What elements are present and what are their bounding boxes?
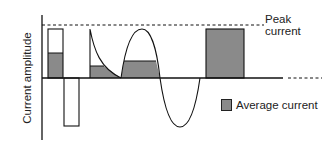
pulse-negative bbox=[64, 78, 79, 126]
exponential-average bbox=[90, 66, 121, 78]
peak-label-line1: Peak bbox=[265, 13, 301, 25]
pulse-positive-average bbox=[48, 53, 63, 78]
sine-average bbox=[121, 61, 160, 78]
legend: Average current bbox=[221, 99, 318, 111]
y-axis-label: Current amplitude bbox=[21, 32, 33, 123]
peak-label-line2: current bbox=[265, 25, 301, 37]
legend-label: Average current bbox=[236, 99, 318, 111]
peak-current-label: Peak current bbox=[265, 13, 301, 37]
dc-block bbox=[206, 29, 244, 78]
legend-swatch-icon bbox=[221, 99, 232, 111]
